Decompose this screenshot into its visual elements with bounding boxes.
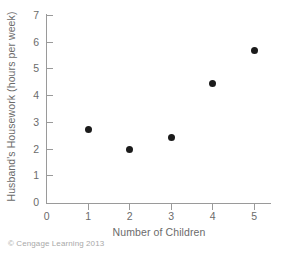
- x-tick-label: 4: [203, 211, 223, 222]
- data-point: [126, 146, 133, 153]
- data-point: [209, 80, 216, 87]
- data-point: [85, 126, 92, 133]
- y-tick-label: 2: [19, 144, 39, 155]
- y-tick-label: 5: [19, 63, 39, 74]
- scatter-chart-figure: 01234567 012345 Husband's Housework (hou…: [0, 0, 281, 261]
- y-tick-label: 0: [19, 197, 39, 208]
- y-axis-title: Husband's Housework (hours per week): [2, 4, 20, 209]
- y-tick-mark: [47, 68, 53, 69]
- data-point: [168, 134, 175, 141]
- y-tick-mark: [47, 95, 53, 96]
- x-tick-label: 3: [161, 211, 181, 222]
- y-tick-label: 7: [19, 10, 39, 21]
- x-tick-label: 0: [37, 211, 57, 222]
- y-tick-mark: [47, 175, 53, 176]
- x-axis-title: Number of Children: [47, 226, 271, 238]
- y-tick-label: 1: [19, 170, 39, 181]
- y-tick-mark: [47, 122, 53, 123]
- x-axis-line: [46, 203, 271, 204]
- x-tick-label: 5: [244, 211, 264, 222]
- y-tick-mark: [47, 42, 53, 43]
- y-tick-label: 3: [19, 117, 39, 128]
- data-point: [251, 47, 258, 54]
- x-tick-label: 2: [120, 211, 140, 222]
- copyright-credit: © Cengage Learning 2013: [8, 239, 104, 248]
- y-tick-label: 4: [19, 90, 39, 101]
- y-tick-label: 6: [19, 37, 39, 48]
- y-tick-mark: [47, 149, 53, 150]
- x-tick-label: 1: [78, 211, 98, 222]
- y-tick-mark: [47, 15, 53, 16]
